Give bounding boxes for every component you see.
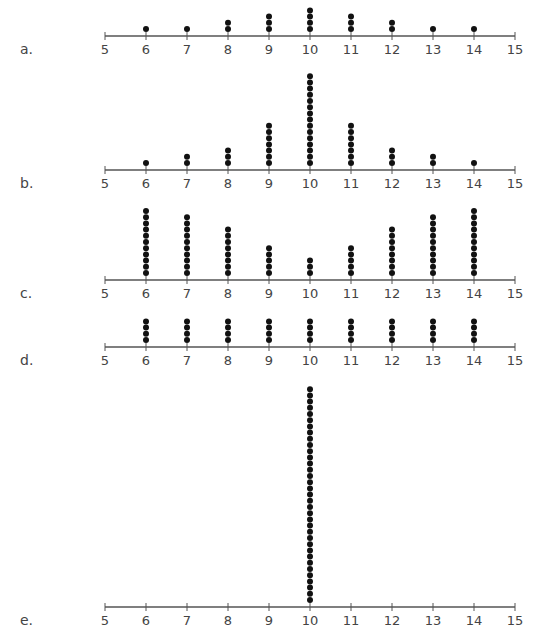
data-dot [307,523,313,529]
data-dot [307,591,313,597]
data-dot [307,516,313,522]
tick-label: 8 [224,613,232,628]
data-dot [307,492,313,498]
data-dot [307,547,313,553]
tick-label: 14 [466,613,483,628]
data-dot [307,479,313,485]
data-dot [307,392,313,398]
data-dot [307,461,313,467]
tick-label: 12 [384,613,401,628]
plot-label: e. [20,612,33,628]
data-dot [307,535,313,541]
data-dot [307,436,313,442]
tick-label: 10 [302,613,319,628]
data-dot [307,430,313,436]
data-dot [307,554,313,560]
data-dot [307,448,313,454]
tick-label: 15 [507,613,524,628]
data-dot [307,454,313,460]
data-dot [307,541,313,547]
tick-label: 13 [425,613,442,628]
data-dot [307,597,313,603]
data-dot [307,473,313,479]
data-dot [307,442,313,448]
data-dot [307,467,313,473]
tick-label: 7 [183,613,191,628]
data-dot [307,560,313,566]
data-dot [307,485,313,491]
data-dot [307,423,313,429]
data-dot [307,566,313,572]
data-dot [307,504,313,510]
tick-label: 9 [265,613,273,628]
data-dot [307,498,313,504]
data-dot [307,411,313,417]
data-dot [307,386,313,392]
dot-plot-e: 56789101112131415e. [0,0,543,644]
data-dot [307,399,313,405]
data-dot [307,510,313,516]
data-dot [307,572,313,578]
data-dot [307,417,313,423]
data-dot [307,529,313,535]
tick-label: 6 [142,613,150,628]
tick-label: 5 [101,613,109,628]
tick-label: 11 [343,613,360,628]
data-dot [307,585,313,591]
data-dot [307,578,313,584]
data-dot [307,405,313,411]
